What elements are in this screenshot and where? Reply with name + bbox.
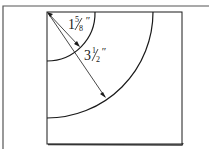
small-inch-mark: ″	[85, 14, 90, 26]
large-inch-mark: ″	[101, 45, 106, 57]
large-whole: 3	[84, 48, 91, 63]
small-numerator: 5	[75, 15, 79, 24]
diagram-canvas: 1 5 8 ″ 3 1 2 ″	[0, 0, 209, 150]
small-denominator: 8	[79, 24, 83, 33]
small-whole: 1	[68, 17, 75, 32]
large-denominator: 2	[96, 55, 100, 64]
